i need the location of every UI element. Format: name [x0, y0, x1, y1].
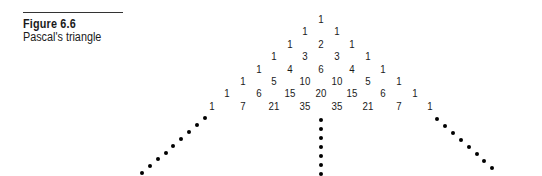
- right-dot: [435, 117, 439, 121]
- triangle-cell: 7: [240, 101, 245, 112]
- right-dot: [467, 145, 471, 149]
- figure-caption: Pascal's triangle: [23, 30, 101, 44]
- right-dot: [475, 152, 479, 156]
- figure-label: Figure 6.6: [23, 17, 76, 31]
- triangle-cell: 10: [331, 76, 342, 87]
- triangle-cell: 6: [318, 64, 323, 75]
- center-dot: [319, 145, 323, 149]
- right-dot: [443, 124, 447, 128]
- triangle-cell: 35: [331, 101, 342, 112]
- triangle-cell: 1: [396, 76, 401, 87]
- left-dot: [140, 171, 144, 175]
- triangle-cell: 4: [349, 64, 354, 75]
- right-dot: [451, 131, 455, 135]
- center-dot: [319, 127, 323, 131]
- triangle-cell: 21: [362, 101, 373, 112]
- triangle-cell: 1: [303, 26, 308, 37]
- triangle-cell: 21: [269, 101, 280, 112]
- triangle-cell: 1: [287, 39, 292, 50]
- triangle-cell: 2: [318, 39, 323, 50]
- left-dot: [203, 116, 207, 120]
- triangle-cell: 10: [300, 76, 311, 87]
- triangle-cell: 3: [334, 51, 339, 62]
- triangle-cell: 35: [300, 101, 311, 112]
- triangle-cell: 1: [381, 64, 386, 75]
- triangle-cell: 15: [347, 88, 358, 99]
- left-dot: [156, 157, 160, 161]
- center-dot: [319, 118, 323, 122]
- right-dot: [482, 159, 486, 163]
- triangle-cell: 1: [256, 64, 261, 75]
- triangle-cell: 20: [316, 88, 327, 99]
- center-dot: [319, 136, 323, 140]
- center-dot: [319, 172, 323, 176]
- left-dot: [195, 123, 199, 127]
- right-dot: [490, 166, 494, 170]
- left-dot: [187, 130, 191, 134]
- triangle-cell: 6: [381, 88, 386, 99]
- triangle-cell: 1: [365, 51, 370, 62]
- triangle-cell: 15: [284, 88, 295, 99]
- triangle-cell: 4: [287, 64, 292, 75]
- left-dot: [179, 137, 183, 141]
- triangle-cell: 7: [396, 101, 401, 112]
- left-dot: [164, 151, 168, 155]
- triangle-cell: 1: [427, 101, 432, 112]
- triangle-cell: 1: [271, 51, 276, 62]
- triangle-cell: 1: [349, 39, 354, 50]
- center-dot: [319, 163, 323, 167]
- triangle-cell: 5: [365, 76, 370, 87]
- triangle-cell: 1: [318, 14, 323, 25]
- triangle-cell: 5: [271, 76, 276, 87]
- right-dot: [459, 138, 463, 142]
- center-dot: [319, 154, 323, 158]
- left-dot: [148, 164, 152, 168]
- left-dot: [171, 144, 175, 148]
- figure-rule: [23, 12, 123, 13]
- triangle-cell: 1: [334, 26, 339, 37]
- triangle-cell: 1: [209, 101, 214, 112]
- triangle-cell: 6: [256, 88, 261, 99]
- triangle-cell: 1: [225, 88, 230, 99]
- triangle-cell: 1: [412, 88, 417, 99]
- triangle-cell: 1: [240, 76, 245, 87]
- triangle-cell: 3: [303, 51, 308, 62]
